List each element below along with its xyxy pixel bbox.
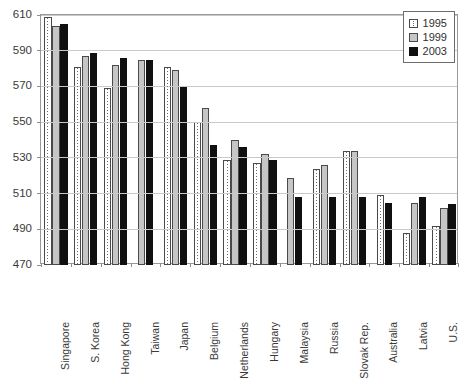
y-axis-labels: 470490510530550570590610 xyxy=(0,14,36,264)
bar-hong-kong-1999 xyxy=(112,65,119,265)
gridline xyxy=(41,50,457,51)
y-axis-tick-label: 590 xyxy=(13,44,32,56)
bar-u-s-2003 xyxy=(448,204,455,265)
bar-s-korea-1999 xyxy=(82,56,89,265)
bar-latvia-1995 xyxy=(403,233,410,265)
bar-netherlands-1999 xyxy=(231,140,238,265)
bar-slovak-rep-1995 xyxy=(343,151,350,265)
bar-belgium-1999 xyxy=(202,108,209,265)
x-axis-tick-label: S. Korea xyxy=(89,322,101,363)
bar-australia-2003 xyxy=(385,203,392,266)
bars-layer xyxy=(41,15,457,263)
gridline xyxy=(41,157,457,158)
y-axis-tick xyxy=(37,157,41,158)
bar-u-s-1999 xyxy=(440,208,447,265)
x-axis-tick-label: Belgium xyxy=(208,322,220,360)
gridline xyxy=(41,15,457,16)
bar-hungary-1995 xyxy=(253,163,260,265)
y-axis-tick-label: 490 xyxy=(13,222,32,234)
gridline xyxy=(41,86,457,87)
x-axis-tick-label: U.S. xyxy=(447,322,459,342)
y-axis-tick xyxy=(37,122,41,123)
y-axis-tick xyxy=(37,86,41,87)
y-axis-tick xyxy=(37,229,41,230)
legend-swatch-2003-icon xyxy=(409,47,418,56)
bar-malaysia-1999 xyxy=(287,178,294,266)
y-axis-tick xyxy=(37,15,41,16)
bar-russia-2003 xyxy=(329,197,336,265)
gridline xyxy=(41,122,457,123)
x-axis-tick-label: Taiwan xyxy=(149,322,161,355)
bar-japan-2003 xyxy=(180,86,187,265)
bar-australia-1995 xyxy=(377,195,384,265)
bar-latvia-2003 xyxy=(419,197,426,265)
bar-s-korea-1995 xyxy=(74,67,81,265)
bar-russia-1995 xyxy=(313,169,320,265)
y-axis-tick-label: 570 xyxy=(13,79,32,91)
x-axis-tick-label: Latvia xyxy=(417,322,429,350)
bar-russia-1999 xyxy=(321,165,328,265)
bar-malaysia-2003 xyxy=(295,197,302,265)
y-axis-tick-label: 610 xyxy=(13,8,32,20)
bar-slovak-rep-1999 xyxy=(351,151,358,265)
bar-netherlands-2003 xyxy=(239,147,246,265)
x-axis-tick xyxy=(458,263,459,267)
legend: 1995 1999 2003 xyxy=(403,11,455,63)
x-axis-labels: SingaporeS. KoreaHong KongTaiwanJapanBel… xyxy=(40,266,458,324)
gridline xyxy=(41,193,457,194)
x-axis-tick-label: Australia xyxy=(387,322,399,363)
x-axis-tick-label: Hong Kong xyxy=(119,322,131,375)
bar-singapore-1995 xyxy=(44,17,51,265)
legend-item-2003: 2003 xyxy=(409,44,447,58)
plot-area xyxy=(40,14,458,264)
bar-taiwan-2003 xyxy=(146,60,153,265)
bar-netherlands-1995 xyxy=(223,160,230,265)
gridline xyxy=(41,229,457,230)
bar-hungary-1999 xyxy=(261,154,268,265)
legend-item-1995: 1995 xyxy=(409,16,447,30)
legend-swatch-1995-icon xyxy=(409,19,418,28)
x-axis-tick-label: Singapore xyxy=(59,322,71,370)
bar-japan-1999 xyxy=(172,70,179,265)
bar-latvia-1999 xyxy=(411,203,418,266)
legend-swatch-1999-icon xyxy=(409,33,418,42)
bar-hungary-2003 xyxy=(269,160,276,265)
bar-slovak-rep-2003 xyxy=(359,197,366,265)
legend-label-1995: 1995 xyxy=(423,18,447,29)
bar-s-korea-2003 xyxy=(90,53,97,266)
y-axis-tick-label: 530 xyxy=(13,151,32,163)
bar-japan-1995 xyxy=(164,67,171,265)
x-axis-tick-label: Hungary xyxy=(268,322,280,362)
x-axis-tick-label: Japan xyxy=(178,322,190,351)
bar-taiwan-1999 xyxy=(138,60,145,265)
x-axis-tick-label: Slovak Rep. xyxy=(358,322,370,379)
y-axis-tick-label: 550 xyxy=(13,115,32,127)
y-axis-tick xyxy=(37,193,41,194)
bar-u-s-1995 xyxy=(432,226,439,265)
bar-hong-kong-2003 xyxy=(120,58,127,265)
y-axis-tick-label: 470 xyxy=(13,258,32,270)
legend-label-2003: 2003 xyxy=(423,46,447,57)
x-axis-tick-label: Russia xyxy=(328,322,340,354)
y-axis-tick-label: 510 xyxy=(13,187,32,199)
x-axis-tick-label: Malaysia xyxy=(298,322,310,363)
legend-item-1999: 1999 xyxy=(409,30,447,44)
x-axis-tick-label: Netherlands xyxy=(238,322,250,379)
bar-belgium-2003 xyxy=(210,145,217,265)
y-axis-tick xyxy=(37,50,41,51)
legend-label-1999: 1999 xyxy=(423,32,447,43)
bar-hong-kong-1995 xyxy=(104,88,111,265)
